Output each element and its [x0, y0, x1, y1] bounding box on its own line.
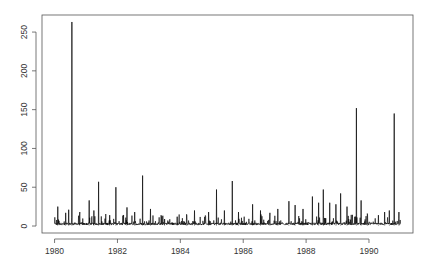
series-layer	[55, 22, 401, 226]
y-tick-label: 200	[19, 63, 29, 77]
x-tick-label: 1982	[108, 246, 127, 256]
time-series-chart: 050100150200250 198019821984198619881990	[0, 0, 434, 269]
y-tick-label: 250	[19, 25, 29, 39]
x-tick-label: 1984	[171, 246, 190, 256]
y-tick-label: 50	[19, 182, 29, 192]
x-tick-label: 1990	[360, 246, 379, 256]
series-line	[55, 22, 401, 225]
y-tick-label: 100	[19, 141, 29, 155]
y-tick-label: 0	[19, 223, 29, 228]
x-tick-label: 1980	[45, 246, 64, 256]
x-tick-label: 1986	[234, 246, 253, 256]
y-tick-label: 150	[19, 102, 29, 116]
x-axis: 198019821984198619881990	[45, 239, 379, 256]
x-tick-label: 1988	[297, 246, 316, 256]
y-axis: 050100150200250	[19, 25, 36, 229]
plot-frame	[42, 15, 413, 233]
